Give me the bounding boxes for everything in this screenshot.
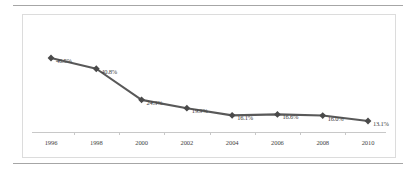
data-point-marker — [274, 111, 281, 118]
data-point-marker — [319, 112, 326, 119]
chart-page: 46.5%40.8%24.3%19.9%16.1%16.6%16.0%13.1%… — [0, 0, 414, 174]
series-line — [51, 58, 368, 121]
x-axis-tick — [119, 132, 120, 135]
data-point-label: 24.3% — [147, 99, 163, 106]
line-series-svg — [23, 15, 397, 159]
data-point-label: 19.9% — [192, 107, 208, 114]
data-point-marker — [183, 105, 190, 112]
data-point-label: 16.0% — [328, 115, 344, 122]
x-axis-label: 2002 — [181, 139, 194, 146]
bottom-divider-rule — [13, 163, 403, 164]
data-point-label: 16.1% — [237, 114, 253, 121]
x-axis-tick — [164, 132, 165, 135]
data-point-marker — [365, 118, 372, 125]
data-point-label: 13.1% — [373, 120, 389, 127]
x-axis-tick — [210, 132, 211, 135]
data-point-label: 16.6% — [282, 113, 298, 120]
data-point-marker — [229, 112, 236, 119]
x-axis-label: 2004 — [226, 139, 239, 146]
x-axis-tick — [255, 132, 256, 135]
x-axis-tick — [345, 132, 346, 135]
top-divider-rule — [13, 5, 403, 6]
x-axis-label: 2000 — [135, 139, 148, 146]
x-axis-tick — [74, 132, 75, 135]
x-axis-label: 2008 — [316, 139, 329, 146]
data-point-label: 40.8% — [101, 68, 117, 75]
data-point-label: 46.5% — [56, 57, 72, 64]
x-axis-label: 1996 — [45, 139, 58, 146]
x-axis-label: 2010 — [362, 139, 375, 146]
x-axis-label: 2006 — [271, 139, 284, 146]
chart-frame: 46.5%40.8%24.3%19.9%16.1%16.6%16.0%13.1%… — [22, 14, 396, 158]
x-axis-tick — [300, 132, 301, 135]
x-axis-label: 1998 — [90, 139, 103, 146]
data-point-marker — [48, 55, 55, 62]
plot-area: 46.5%40.8%24.3%19.9%16.1%16.6%16.0%13.1%… — [23, 15, 395, 157]
